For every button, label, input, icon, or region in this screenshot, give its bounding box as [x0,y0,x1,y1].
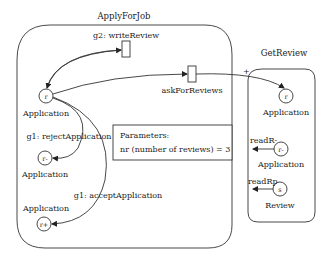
write-review-label: g2: writeReview [93,31,159,40]
node-r-minus-caption: Application [21,170,68,179]
accept-application-label: g1: acceptApplication [74,191,162,200]
parameters-box: Parameters: nr (number of reviews) = 3 [113,125,232,160]
ask-for-reviews-label: askForReviews [162,86,223,95]
node-r-plus-caption: Application [22,204,69,213]
parameters-value: nr (number of reviews) = 3 [120,145,230,154]
read-r-minus-label: readR- [250,136,277,145]
getreview-node-r-caption: Application [262,108,309,117]
node-r-minus-label: r- [42,155,47,163]
get-review-title: GetReview [261,48,308,58]
plus-marker: + [243,67,250,76]
node-r-plus-label: r+ [40,221,49,229]
getreview-node-s-caption: Review [265,201,295,210]
parameters-heading: Parameters: [120,131,169,140]
node-r-caption: Application [22,109,69,118]
write-review-transition[interactable] [122,41,130,57]
ask-for-reviews-transition[interactable] [188,66,196,82]
getreview-node-s-label: s [278,186,281,194]
getreview-node-r-minus-caption: Application [257,160,304,169]
reject-application-label: g1: rejectApplication [26,132,111,141]
read-rp-label: readRp [248,177,278,186]
getreview-node-r-minus-label: r- [278,146,283,154]
apply-for-job-title: ApplyForJob [96,11,151,21]
